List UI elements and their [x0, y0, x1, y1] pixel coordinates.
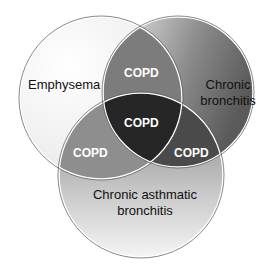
- label-chronic-asthmatic-line1: Chronic asthmatic: [85, 187, 205, 203]
- label-chronic-bronchitis-line1: Chronic: [198, 77, 258, 93]
- copd-top: COPD: [124, 65, 159, 81]
- copd-left: COPD: [73, 145, 108, 161]
- venn-graphic: [0, 0, 275, 271]
- label-chronic-bronchitis-line2: bronchitis: [198, 93, 258, 109]
- label-chronic-asthmatic-bronchitis: Chronic asthmatic bronchitis: [85, 187, 205, 219]
- copd-right: COPD: [174, 145, 209, 161]
- copd-center: COPD: [124, 115, 159, 131]
- venn-diagram: Emphysema Chronic bronchitis Chronic ast…: [0, 0, 275, 271]
- label-chronic-asthmatic-line2: bronchitis: [85, 203, 205, 219]
- label-chronic-bronchitis: Chronic bronchitis: [198, 77, 258, 109]
- label-emphysema: Emphysema: [28, 77, 100, 93]
